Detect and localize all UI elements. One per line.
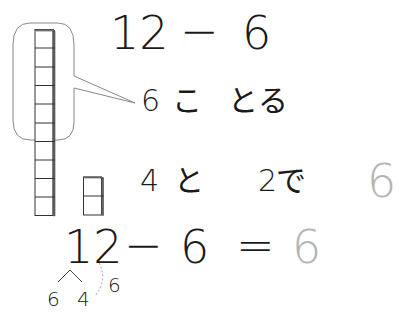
decomp-take: 6 — [108, 275, 121, 295]
decomp-part-a: 6 — [47, 289, 60, 309]
problem-left: 12 — [110, 10, 169, 56]
step2-a: 4 — [140, 166, 159, 196]
step2-particle: と — [174, 166, 204, 196]
equation-operator: − — [124, 222, 163, 268]
step1-counter: こ — [172, 86, 202, 116]
equation-right: 6 — [180, 224, 209, 270]
problem-operator: − — [180, 8, 219, 54]
equation-equals: = — [236, 222, 275, 268]
decomp-part-b: 4 — [77, 289, 90, 309]
step2-particle2: で — [276, 166, 306, 196]
problem-right: 6 — [242, 10, 271, 56]
ten-stick-block — [35, 30, 55, 217]
loose-cubes-block — [84, 177, 104, 216]
step2-answer: 6 — [367, 158, 396, 204]
equation-answer: 6 — [292, 224, 321, 270]
step2-b: 2 — [258, 166, 277, 196]
step1-number: 6 — [141, 86, 160, 116]
equation-left: 12 — [64, 224, 123, 270]
step1-verb: とる — [228, 86, 288, 116]
